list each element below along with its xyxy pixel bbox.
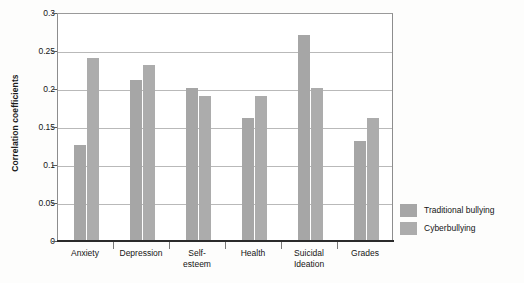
plot-area <box>57 13 393 241</box>
x-axis-tick-label-line: Grades <box>337 248 393 259</box>
x-axis-tick-label: Self-esteem <box>169 248 225 269</box>
bar <box>298 35 310 240</box>
x-axis-tick-label-line: Ideation <box>281 259 337 270</box>
bar-group <box>170 14 226 240</box>
bar <box>367 118 379 240</box>
bar-group <box>114 14 170 240</box>
legend-item-label: Traditional bullying <box>424 205 495 215</box>
x-axis-tick-label: Grades <box>337 248 393 259</box>
chart-figure: Correlation coefficients 0.30.250.20.150… <box>0 0 524 283</box>
legend-item-label: Cyberbullying <box>424 223 476 233</box>
x-axis-tick-label: Health <box>225 248 281 259</box>
x-axis-tick-label-line: Anxiety <box>57 248 113 259</box>
legend: Traditional bullyingCyberbullying <box>400 201 520 237</box>
bar <box>311 88 323 240</box>
bar <box>130 80 142 240</box>
bar-group <box>58 14 114 240</box>
x-axis-tick-label: SuicidalIdeation <box>281 248 337 269</box>
x-axis-tick-label: Anxiety <box>57 248 113 259</box>
bar <box>87 58 99 240</box>
legend-color-swatch <box>400 222 417 235</box>
y-axis-title-label: Correlation coefficients <box>10 74 20 171</box>
bar-group <box>226 14 282 240</box>
x-axis-tick-label-line: esteem <box>169 259 225 270</box>
legend-color-swatch <box>400 204 417 217</box>
bar-group <box>338 14 394 240</box>
x-axis-tick-label-line: Health <box>225 248 281 259</box>
bar <box>255 96 267 240</box>
legend-item: Traditional bullying <box>400 201 520 219</box>
bar-group <box>282 14 338 240</box>
bar <box>354 141 366 240</box>
x-axis-tick-label-line: Self- <box>169 248 225 259</box>
legend-item: Cyberbullying <box>400 219 520 237</box>
bar <box>186 88 198 240</box>
y-axis-ticks: 0.30.250.20.150.10.050 <box>24 0 55 283</box>
bar <box>242 118 254 240</box>
x-axis-tick-label: Depression <box>113 248 169 259</box>
bar <box>143 65 155 240</box>
x-axis-tick-label-line: Suicidal <box>281 248 337 259</box>
bar <box>199 96 211 240</box>
bar <box>74 145 86 240</box>
x-axis-tick-label-line: Depression <box>113 248 169 259</box>
